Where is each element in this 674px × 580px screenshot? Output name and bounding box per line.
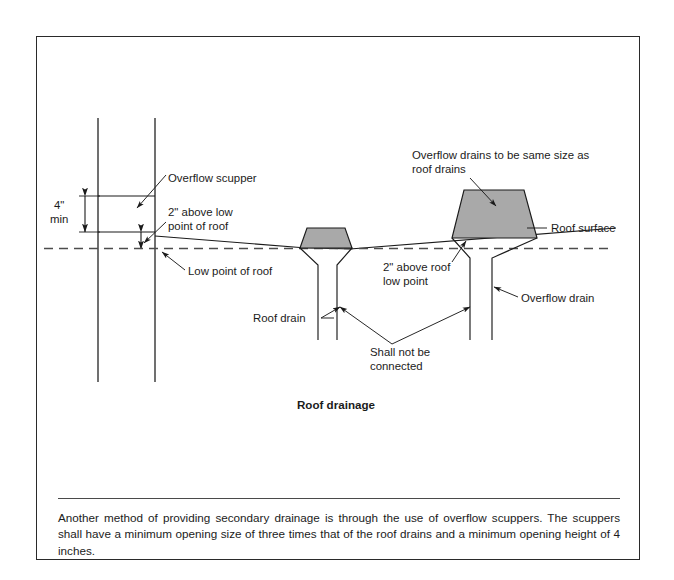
overflow-scupper-label: Overflow scupper [168,172,257,184]
shall-not-be-line2: connected [370,360,423,372]
figure-page: 4" min Overflow scupper 2" above lo [0,0,674,580]
dimension-4in-min: 4" min [50,196,100,232]
label-roof-drain: Roof drain [253,307,340,324]
roof-drain-label: Roof drain [253,312,306,324]
dim-min-label: min [50,213,68,225]
label-2in-above-low-point: 2" above low point of roof [144,206,234,243]
two-above-low-line2: point of roof [168,220,229,232]
shall-not-be-line1: Shall not be [370,346,430,358]
overflow-drains-line2: roof drains [412,163,466,175]
overflow-drain-dome [452,190,537,238]
dim-4in-label: 4" [54,199,64,211]
label-roof-surface: Roof surface [527,222,616,234]
caption-divider [58,498,620,499]
label-overflow-drain: Overflow drain [494,287,594,304]
caption-block: Another method of providing secondary dr… [58,498,620,559]
two-above-roof-line2: low point [383,275,429,287]
overflow-drain-label: Overflow drain [521,292,594,304]
two-above-low-line1: 2" above low [168,206,234,218]
roof-drainage-diagram: 4" min Overflow scupper 2" above lo [0,0,674,580]
figure-title: Roof drainage [297,398,375,411]
label-low-point-of-roof: Low point of roof [162,252,273,277]
caption-text: Another method of providing secondary dr… [58,510,620,559]
low-point-of-roof-label: Low point of roof [188,265,273,277]
roof-drain-dome [300,228,352,248]
overflow-drains-line1: Overflow drains to be same size as [412,149,590,161]
roof-surface-label: Roof surface [551,222,616,234]
parapet-wall [98,118,155,382]
label-shall-not-be-connected: Shall not be connected [340,307,470,372]
two-above-roof-line1: 2" above roof [383,261,451,273]
overflow-drain-assembly [452,190,537,340]
roof-drain-assembly [300,228,352,340]
scupper-opening [98,196,155,232]
